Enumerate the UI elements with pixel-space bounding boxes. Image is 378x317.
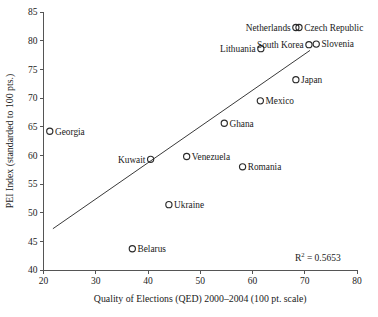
y-tick-label-60: 60 xyxy=(28,151,38,161)
y-tick-label-75: 75 xyxy=(28,65,38,75)
point-label-slovenia: Slovenia xyxy=(321,39,354,49)
point-label-japan: Japan xyxy=(301,75,323,85)
y-axis-ticks: 40455055606570758085 xyxy=(28,7,44,275)
point-label-czech-republic: Czech Republic xyxy=(304,23,363,33)
point-label-lithuania: Lithuania xyxy=(220,44,256,54)
x-tick-label-20: 20 xyxy=(39,276,49,286)
y-tick-label-65: 65 xyxy=(28,122,38,132)
y-tick-label-85: 85 xyxy=(28,7,38,17)
point-label-kuwait: Kuwait xyxy=(118,155,146,165)
y-tick-label-80: 80 xyxy=(28,36,38,46)
data-point: Japan xyxy=(293,75,323,85)
data-point: Netherlands xyxy=(246,23,299,33)
point-marker-south-korea xyxy=(306,42,312,48)
y-tick-label-55: 55 xyxy=(28,179,38,189)
y-tick-label-45: 45 xyxy=(28,237,38,247)
y-axis-title: PEI Index (standarded to 100 pts.) xyxy=(4,74,16,208)
point-marker-romania xyxy=(239,164,245,170)
r-squared-value: = 0.5653 xyxy=(305,253,341,263)
plot-canvas: 20304050607080 40455055606570758085 Geor… xyxy=(0,0,378,317)
x-axis-title: Quality of Elections (QED) 2000–2004 (10… xyxy=(94,293,307,305)
point-label-south-korea: South Korea xyxy=(257,40,304,50)
data-point: Venezuela xyxy=(184,152,231,162)
x-tick-label-50: 50 xyxy=(196,276,206,286)
x-axis-ticks: 20304050607080 xyxy=(39,270,362,286)
point-label-belarus: Belarus xyxy=(138,244,167,254)
point-label-ghana: Ghana xyxy=(229,119,253,129)
data-points: GeorgiaKuwaitBelarusUkraineVenezuelaGhan… xyxy=(47,23,364,254)
data-point: Kuwait xyxy=(118,155,154,165)
y-tick-label-50: 50 xyxy=(28,208,38,218)
point-marker-georgia xyxy=(47,128,53,134)
data-point: South Korea xyxy=(257,40,312,50)
x-tick-label-30: 30 xyxy=(91,276,101,286)
data-point: Ghana xyxy=(221,119,254,129)
x-tick-label-80: 80 xyxy=(352,276,362,286)
point-label-mexico: Mexico xyxy=(266,96,295,106)
data-point: Belarus xyxy=(129,244,166,254)
point-label-netherlands: Netherlands xyxy=(246,23,291,33)
data-point: Georgia xyxy=(47,127,85,137)
point-label-venezuela: Venezuela xyxy=(192,152,230,162)
point-marker-ghana xyxy=(221,120,227,126)
x-tick-label-70: 70 xyxy=(300,276,310,286)
point-marker-venezuela xyxy=(184,153,190,159)
scatter-chart: 20304050607080 40455055606570758085 Geor… xyxy=(0,0,378,317)
data-point: Ukraine xyxy=(166,200,204,210)
x-tick-label-60: 60 xyxy=(248,276,258,286)
data-point: Romania xyxy=(239,162,281,172)
point-marker-mexico xyxy=(257,98,263,104)
data-point: Czech Republic xyxy=(296,23,363,33)
point-label-ukraine: Ukraine xyxy=(174,200,204,210)
point-marker-ukraine xyxy=(166,202,172,208)
x-tick-label-40: 40 xyxy=(143,276,153,286)
r-squared-annotation: R2 = 0.5653 xyxy=(295,251,341,262)
y-tick-label-40: 40 xyxy=(28,265,38,275)
point-label-romania: Romania xyxy=(248,162,282,172)
annotations: R2 = 0.5653 xyxy=(295,251,341,262)
point-label-georgia: Georgia xyxy=(55,127,85,137)
point-marker-belarus xyxy=(129,246,135,252)
point-marker-slovenia xyxy=(313,41,319,47)
point-marker-japan xyxy=(293,77,299,83)
data-point: Mexico xyxy=(257,96,294,106)
y-tick-label-70: 70 xyxy=(28,93,38,103)
data-point: Slovenia xyxy=(313,39,354,49)
